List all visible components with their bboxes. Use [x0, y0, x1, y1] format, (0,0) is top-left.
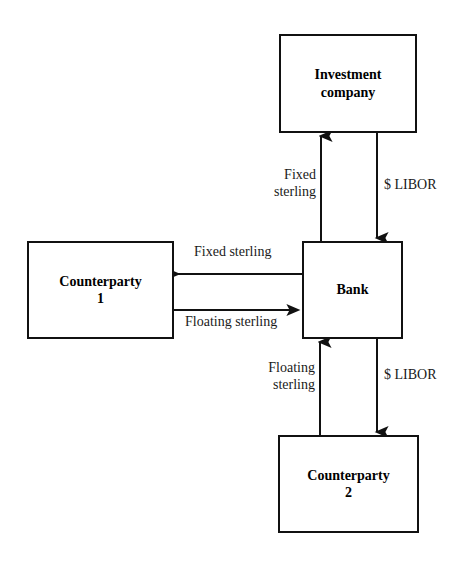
- edge-label-libor-bottom: $ LIBOR: [384, 367, 474, 384]
- edge-label-fixed-sterling-horizontal: Fixed sterling: [194, 244, 314, 261]
- node-investment-company-label: Investment company: [315, 66, 382, 101]
- node-counterparty-1[interactable]: Counterparty 1: [27, 241, 174, 339]
- node-bank-label: Bank: [337, 281, 369, 299]
- edge-label-fixed-sterling-vertical: Fixed sterling: [231, 167, 316, 201]
- node-investment-company[interactable]: Investment company: [279, 34, 417, 133]
- edge-label-floating-sterling-horizontal: Floating sterling: [185, 314, 325, 331]
- swap-diagram: Investment company Counterparty 1 Bank C…: [0, 0, 476, 563]
- node-counterparty-2-label: Counterparty 2: [307, 467, 389, 502]
- edge-label-libor-top: $ LIBOR: [384, 177, 474, 194]
- node-counterparty-2[interactable]: Counterparty 2: [278, 435, 419, 533]
- edge-label-floating-sterling-vertical: Floating sterling: [226, 360, 315, 394]
- node-counterparty-1-label: Counterparty 1: [59, 273, 141, 308]
